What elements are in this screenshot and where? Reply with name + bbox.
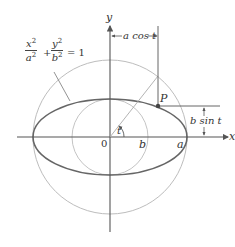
x-axis-label: x (229, 131, 235, 142)
y-axis-label: y (106, 12, 112, 23)
equation-equals: = 1 (67, 48, 85, 58)
point-P-label: P (160, 93, 167, 104)
equation-y-term: y2 b2 (51, 38, 63, 63)
b-sin-t-label: b sin t (190, 116, 222, 126)
a-label: a (177, 139, 184, 150)
b-label: b (139, 139, 146, 150)
angle-t-label: t (117, 126, 121, 136)
origin-label: 0 (101, 139, 107, 149)
ellipse-parametric-diagram: x2 a2 + y2 b2 = 1 y x 0 P b a t a cos t … (0, 0, 235, 247)
equation-x-term: x2 a2 (25, 38, 37, 63)
a-cos-t-label: a cos t (123, 31, 156, 41)
